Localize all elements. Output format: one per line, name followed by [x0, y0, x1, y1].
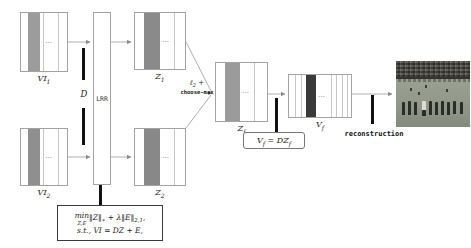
- distant-player: [446, 89, 448, 92]
- person-figure: [422, 110, 426, 116]
- crowd-band: [396, 61, 470, 77]
- matrix-z1: …: [134, 12, 186, 70]
- fusion-annotation: ℓ2 + choose-max: [178, 79, 216, 95]
- person-figure: [408, 101, 411, 115]
- ellipsis: …: [162, 36, 170, 44]
- objective-line1: minZ,E‖Z‖∗ + λ‖E‖2,1,: [58, 210, 162, 225]
- ellipsis: …: [45, 37, 53, 45]
- ellipsis: …: [242, 87, 250, 95]
- column-divider: [331, 75, 332, 117]
- column-divider: [43, 13, 44, 71]
- reconstruction-image: [396, 61, 470, 127]
- matrix-vi2: …: [20, 128, 68, 186]
- matrix-vf-label: Vf: [288, 120, 352, 131]
- zf-equation-connector: [275, 98, 278, 133]
- lrr-pipeline-diagram: … VI1 … VI2 D LRR … Z1 … Z2 ℓ2 + choose-…: [0, 0, 471, 248]
- column-divider: [301, 75, 302, 117]
- matrix-vi2-label: VI2: [20, 188, 68, 199]
- ellipsis: …: [162, 152, 170, 160]
- person-figure: [453, 101, 456, 114]
- lrr-objective-box: minZ,E‖Z‖∗ + λ‖E‖2,1, s.t., VI = DZ + E,: [57, 205, 163, 241]
- objective-line2: s.t., VI = DZ + E,: [58, 225, 162, 236]
- dictionary-bracket-top: [82, 48, 85, 80]
- column-divider: [254, 63, 255, 121]
- person-figure: [447, 102, 450, 115]
- l2-norm-label: ℓ2 +: [178, 79, 216, 89]
- matrix-vi1-label: VI1: [20, 74, 68, 85]
- person-figure: [441, 101, 444, 115]
- distant-player: [425, 85, 427, 88]
- choose-max-label: choose-max: [178, 89, 216, 95]
- ellipsis: …: [318, 91, 326, 99]
- matrix-vf: …: [288, 74, 352, 118]
- lrr-box: LRR: [93, 12, 111, 185]
- lrr-formula-connector: [99, 185, 102, 205]
- reconstruction-connector: [371, 95, 374, 124]
- lrr-label: LRR: [94, 95, 110, 103]
- column-divider: [43, 129, 44, 185]
- column-divider: [342, 75, 343, 117]
- dictionary-label: D: [76, 89, 92, 99]
- person-figure: [460, 102, 463, 114]
- column-divider: [58, 129, 59, 185]
- column-divider: [347, 75, 348, 117]
- highlighted-column: [144, 13, 160, 69]
- column-divider: [336, 75, 337, 117]
- matrix-z2: …: [134, 128, 186, 186]
- column-divider: [174, 129, 175, 185]
- person-figure: [422, 101, 426, 110]
- vf-equation-box: Vf = DZf: [243, 132, 305, 149]
- person-figure: [429, 101, 432, 115]
- person-figure: [414, 102, 417, 115]
- matrix-vi1: …: [20, 12, 68, 72]
- highlighted-column: [28, 129, 40, 185]
- column-divider: [295, 75, 296, 117]
- person-figure: [435, 102, 438, 115]
- matrix-z2-label: Z2: [134, 188, 186, 199]
- dictionary-bracket-bottom: [82, 108, 85, 145]
- reconstruction-label: reconstruction: [344, 130, 404, 138]
- distant-player: [410, 88, 412, 91]
- highlighted-column: [225, 63, 240, 121]
- highlighted-column: [306, 75, 316, 117]
- highlighted-column: [28, 13, 40, 71]
- column-divider: [174, 13, 175, 69]
- highlighted-column: [144, 129, 160, 185]
- person-figure: [402, 102, 405, 115]
- column-divider: [58, 13, 59, 71]
- distant-player: [418, 92, 420, 95]
- matrix-zf: …: [215, 62, 268, 122]
- ellipsis: …: [45, 152, 53, 160]
